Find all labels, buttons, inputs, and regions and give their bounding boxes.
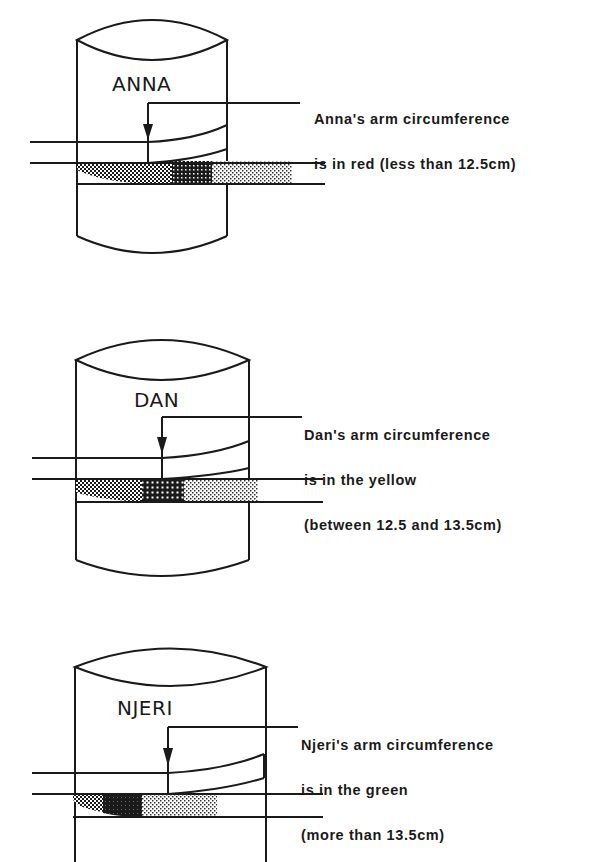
caption-anna: Anna's arm circumference is in red (less… [314, 82, 516, 202]
figure-dan: DAN Dan's arm circumference is in the ye… [0, 300, 602, 600]
name-label-njeri: NJERI [117, 696, 173, 720]
tape-colored-zones-anna [77, 161, 292, 184]
caption-line: Anna's arm circumference [314, 112, 516, 127]
figure-anna: ANNA Anna's arm circumference is in red … [0, 0, 602, 260]
arm-band-diagram-dan [0, 300, 602, 600]
caption-njeri: Njeri's arm circumference is in the gree… [301, 708, 494, 862]
arrow-pointer-icon [163, 748, 173, 766]
name-label-dan: DAN [134, 388, 179, 412]
figure-njeri: NJERI Njeri's arm circumference is in th… [0, 620, 602, 862]
arrow-pointer-icon [157, 437, 167, 454]
caption-line: (more than 13.5cm) [301, 828, 494, 843]
caption-dan: Dan's arm circumference is in the yellow… [304, 398, 502, 563]
arrow-pointer-icon [143, 124, 153, 140]
caption-line: Dan's arm circumference [304, 428, 502, 443]
caption-line: is in red (less than 12.5cm) [314, 157, 516, 172]
caption-line: is in the green [301, 783, 494, 798]
caption-line: is in the yellow [304, 473, 502, 488]
name-label-anna: ANNA [112, 72, 171, 96]
tape-colored-zones-dan [76, 479, 258, 502]
cylinder-arm-anna [77, 20, 227, 253]
tape-colored-zones-njeri [73, 794, 217, 817]
caption-line: (between 12.5 and 13.5cm) [304, 518, 502, 533]
caption-line: Njeri's arm circumference [301, 738, 494, 753]
